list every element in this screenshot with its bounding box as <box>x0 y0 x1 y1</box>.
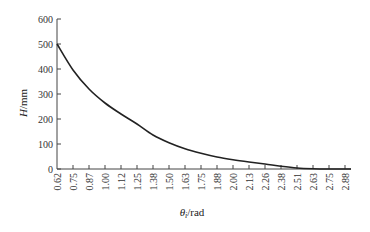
x-tick-label: 1.50 <box>164 173 175 191</box>
x-tick-label: 1.75 <box>196 173 207 191</box>
x-tick-label: 2.13 <box>244 173 255 191</box>
y-tick-label: 200 <box>38 114 53 125</box>
x-tick-label: 1.25 <box>132 173 143 191</box>
x-tick-label: 1.38 <box>148 173 159 191</box>
y-tick-label: 500 <box>38 39 53 50</box>
x-tick-label: 0.62 <box>52 173 63 191</box>
x-tick-label: 2.38 <box>276 173 287 191</box>
y-tick-label: 100 <box>38 139 53 150</box>
y-tick-label: 300 <box>38 89 53 100</box>
y-tick-label: 0 <box>48 164 53 175</box>
x-tick-label: 0.87 <box>84 173 95 191</box>
x-tick-label: 2.51 <box>292 173 303 191</box>
y-tick-label: 600 <box>38 14 53 25</box>
data-curve <box>57 44 351 169</box>
x-tick-label: 2.75 <box>324 173 335 191</box>
y-tick-label: 400 <box>38 64 53 75</box>
x-tick-label: 2.00 <box>228 173 239 191</box>
x-tick-label: 2.26 <box>260 173 271 191</box>
x-tick-label: 2.63 <box>308 173 319 191</box>
x-axis-label: θi/rad <box>180 206 205 220</box>
y-axis-ticks: 0100200300400500600 <box>38 14 61 175</box>
y-axis-label: H/mm <box>17 88 29 118</box>
x-tick-label: 1.88 <box>212 173 223 191</box>
x-tick-label: 1.63 <box>180 173 191 191</box>
line-chart: 0100200300400500600 0.620.750.871.001.12… <box>0 0 370 232</box>
x-tick-label: 1.00 <box>100 173 111 191</box>
x-tick-label: 0.75 <box>68 173 79 191</box>
x-tick-label: 2.88 <box>340 173 351 191</box>
x-tick-label: 1.12 <box>116 173 127 191</box>
